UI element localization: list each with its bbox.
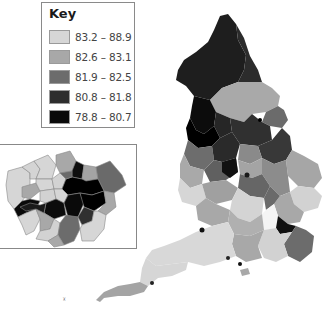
scilly-isles-mark: ᵡ	[63, 296, 66, 304]
london-inset	[0, 144, 137, 249]
legend-label: 80.8 – 81.8	[75, 91, 131, 103]
legend-label: 81.9 – 82.5	[75, 71, 131, 83]
legend-item: 81.9 – 82.5	[49, 69, 131, 84]
region-norfolk	[286, 150, 322, 188]
region-somerset-dorset	[146, 222, 236, 266]
london-inset-map	[0, 145, 136, 248]
legend-swatch	[49, 70, 70, 84]
legend-item: 80.8 – 81.8	[49, 89, 131, 104]
legend-title: Key	[49, 6, 76, 21]
legend-label: 82.6 – 83.1	[75, 51, 131, 63]
legend-label: 78.8 – 80.7	[75, 111, 131, 123]
borough-redbridge	[82, 165, 98, 181]
legend-item: 78.8 – 80.7	[49, 109, 131, 124]
urban-spot	[150, 281, 154, 285]
urban-spot	[238, 262, 242, 266]
urban-spot	[200, 228, 205, 233]
map-legend: Key 83.2 – 88.9 82.6 – 83.1 81.9 – 82.5 …	[41, 2, 135, 128]
legend-swatch	[49, 90, 70, 104]
legend-swatch	[49, 110, 70, 124]
urban-spot	[245, 173, 250, 178]
legend-swatch	[49, 30, 70, 44]
region-cornwall	[96, 282, 148, 302]
urban-spot	[258, 118, 262, 122]
borough-hackney	[62, 177, 104, 195]
legend-swatch	[49, 50, 70, 64]
legend-item: 82.6 – 83.1	[49, 49, 131, 64]
legend-label: 83.2 – 88.9	[75, 31, 131, 43]
urban-spot	[226, 256, 230, 260]
region-isle-of-wight	[240, 268, 250, 276]
legend-item: 83.2 – 88.9	[49, 29, 131, 44]
